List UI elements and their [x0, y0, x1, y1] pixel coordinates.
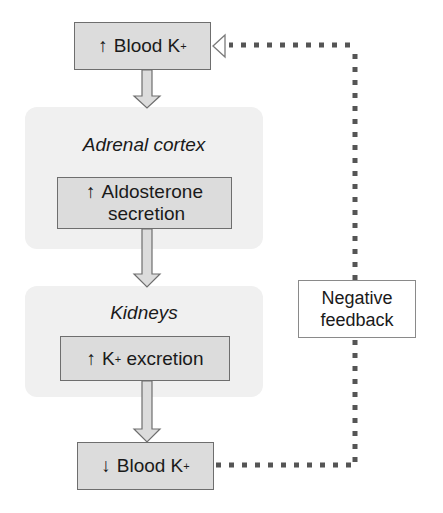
excretion-label: excretion	[121, 348, 203, 370]
negative-feedback-box: Negative feedback	[298, 280, 416, 338]
top-box-label: Blood K	[114, 35, 181, 57]
aldosterone-secretion-box: ↑Aldosterone secretion	[57, 177, 232, 229]
down-arrow-icon: ↓	[101, 455, 111, 477]
adrenal-cortex-title: Adrenal cortex	[25, 134, 263, 156]
flow-arrow-3	[134, 381, 160, 442]
up-arrow-icon: ↑	[98, 35, 108, 57]
bottom-box-label: Blood K	[117, 455, 184, 477]
up-arrow-icon: ↑	[86, 181, 96, 202]
feedback-line1: Negative	[321, 287, 392, 309]
k-excretion-box: ↑ K+ excretion	[60, 336, 230, 381]
negative-feedback-loop	[216, 45, 355, 465]
aldosterone-line2: secretion	[104, 203, 185, 225]
up-arrow-icon: ↑	[87, 348, 97, 370]
decreased-blood-k-box: ↓ Blood K+	[77, 442, 214, 490]
feedback-line2: feedback	[320, 309, 393, 331]
feedback-arrowhead-icon	[213, 35, 225, 57]
kidneys-title: Kidneys	[25, 302, 263, 324]
aldosterone-line1: ↑Aldosterone	[86, 181, 203, 203]
flow-arrow-2	[134, 229, 160, 287]
increased-blood-k-box: ↑ Blood K+	[74, 22, 211, 70]
excretion-k: K	[102, 348, 115, 370]
connectors	[0, 0, 443, 513]
flow-arrow-1	[134, 70, 160, 108]
aldosterone-label: Aldosterone	[102, 181, 203, 202]
